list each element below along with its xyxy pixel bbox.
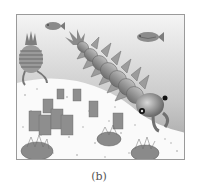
anomalocaris-head [136,93,164,117]
illustration-frame [16,14,185,160]
eye-icon [163,96,168,101]
figure-caption: (b) [0,170,198,183]
illustration-canvas [17,15,185,160]
